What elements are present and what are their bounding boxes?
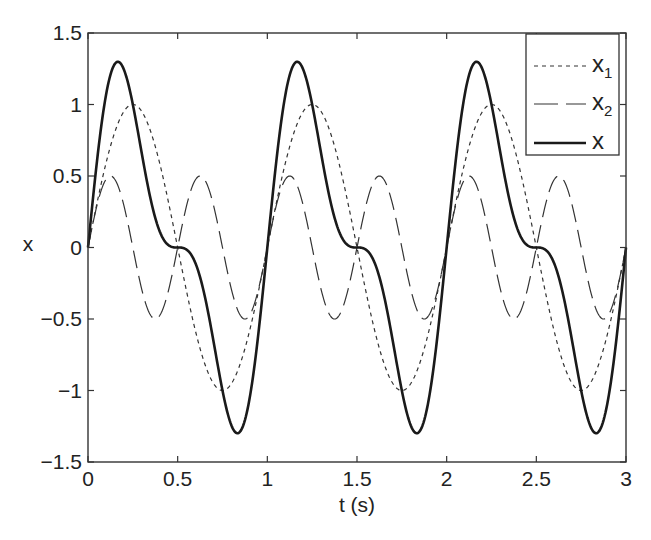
line-chart: 00.511.522.53 −1.5−1−0.500.511.5 t (s) x… [0,0,651,540]
x-tick-label: 0.5 [163,467,192,490]
y-tick-label: 1 [70,93,82,116]
x-tick-label: 3 [620,467,632,490]
x-tick-label: 1.5 [342,467,371,490]
y-tick-label: −1.5 [41,450,82,473]
x-axis-label: t (s) [339,493,375,516]
x-tick-label: 0 [82,467,94,490]
y-tick-label: 0.5 [53,164,82,187]
x-tick-labels: 00.511.522.53 [82,467,632,490]
legend: x1x2x [526,34,619,155]
y-axis-label: x [23,232,34,255]
x-tick-label: 1 [261,467,273,490]
x-tick-label: 2.5 [522,467,551,490]
x-tick-label: 2 [441,467,453,490]
y-tick-labels: −1.5−1−0.500.511.5 [41,21,82,473]
legend-box [526,34,619,155]
figure: 00.511.522.53 −1.5−1−0.500.511.5 t (s) x… [0,0,651,540]
y-tick-label: −0.5 [41,307,82,330]
legend-label-x: x [592,127,604,154]
y-tick-label: 0 [70,236,82,259]
y-tick-label: −1 [58,379,82,402]
y-tick-label: 1.5 [53,21,82,44]
